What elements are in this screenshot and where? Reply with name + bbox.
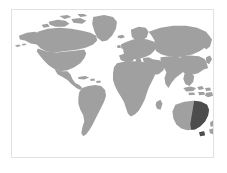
world-map-svg	[12, 10, 213, 157]
map-figure	[0, 0, 227, 173]
world-map-frame	[11, 9, 214, 158]
